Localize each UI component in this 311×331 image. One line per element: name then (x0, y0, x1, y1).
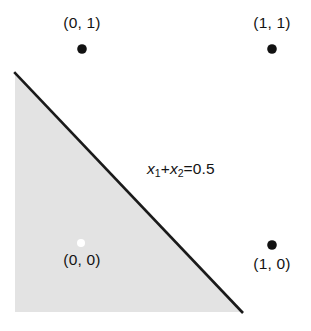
point-label-1-0: (1, 0) (234, 256, 310, 272)
boundary-equation-label: x1+x2=0.5 (147, 160, 215, 182)
point-label-0-1: (0, 1) (44, 15, 120, 31)
equation-equals: = (184, 160, 193, 177)
equation-var-x2: x2 (170, 160, 184, 177)
point-label-1-1: (1, 1) (234, 15, 310, 31)
equation-var-x1: x1 (147, 160, 161, 177)
data-point-0-0[interactable] (77, 239, 85, 247)
data-point-0-1[interactable] (77, 44, 87, 54)
equation-rhs: 0.5 (193, 160, 215, 177)
data-point-1-1[interactable] (267, 44, 277, 54)
point-label-0-0: (0, 0) (44, 252, 120, 268)
equation-plus: + (161, 160, 170, 177)
figure-canvas: (0, 1) (1, 1) (0, 0) (1, 0) x1+x2=0.5 (0, 0, 311, 331)
data-point-1-0[interactable] (267, 240, 277, 250)
